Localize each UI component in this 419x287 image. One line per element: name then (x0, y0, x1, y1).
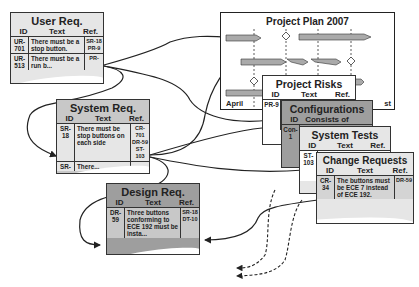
row-id: Con-1 (282, 125, 300, 155)
col-text: Text (80, 114, 126, 123)
col-ref: Ref. (126, 114, 147, 123)
col-ref: Ref. (332, 90, 353, 99)
column-header: ID Text Ref. (300, 141, 390, 150)
torn-edge (316, 214, 414, 224)
configurations-title: Configurations (282, 103, 372, 115)
project-risks-title: Project Risks (263, 78, 355, 90)
col-id: ID (109, 198, 130, 207)
row-text: There must be a stop button. (29, 37, 85, 53)
col-text: Text (34, 27, 80, 36)
column-header: ID Text Ref. (11, 27, 103, 36)
row-text: There must be a run b... (29, 54, 85, 70)
col-text: Consists of (304, 115, 349, 124)
col-text: Text (130, 198, 176, 207)
row-ref: PR- (85, 54, 103, 70)
row-id: DR-59 (107, 208, 125, 238)
row-ref: DR-59 (395, 176, 413, 199)
design-req-title: Design Req. (107, 186, 199, 198)
col-id: ID (13, 27, 34, 36)
column-header: ID Text Ref. (263, 90, 355, 99)
row-id: SR-18 (57, 124, 75, 161)
row-text: The buttons must be ECE 7 instead of ECE… (335, 176, 395, 199)
table-row[interactable]: CR-34 The buttons must be ECE 7 instead … (317, 175, 413, 199)
col-ref: Ref. (389, 166, 411, 175)
col-ref: Ref. (80, 27, 101, 36)
table-row[interactable]: DR-59 Three buttons conforming to ECE 19… (107, 207, 199, 238)
row-ref: SR-18 PR-9 (85, 37, 103, 53)
system-req-title: System Req. (57, 102, 149, 114)
col-id: ID (265, 90, 286, 99)
change-requests-title: Change Requests (317, 155, 413, 166)
row-id: CR-34 (317, 176, 335, 199)
column-header: ID Consists of (282, 115, 372, 124)
change-requests-card[interactable]: Change Requests ID Text Ref. CR-34 The b… (316, 152, 414, 224)
table-row[interactable]: UR-701 There must be a stop button. SR-1… (11, 36, 103, 53)
row-id: PR-9 (263, 100, 281, 130)
torn-edge (106, 246, 200, 255)
system-req-card[interactable]: System Req. ID Text Ref. SR-18 There mus… (56, 99, 150, 174)
col-id: ID (302, 141, 322, 150)
row-text: Three buttons conforming to ECE 192 must… (125, 208, 181, 238)
table-row[interactable]: UR-513 There must be a run b... PR- (11, 53, 103, 70)
project-plan-title: Project Plan 2007 (221, 16, 394, 27)
column-header: ID Text Ref. (317, 166, 413, 175)
torn-edge (10, 74, 104, 84)
user-req-card[interactable]: User Req. ID Text Ref. UR-701 There must… (10, 12, 104, 84)
table-row[interactable]: SR-18 There must be stop buttons on each… (57, 123, 149, 161)
row-text: There must be stop buttons on each side (75, 124, 131, 161)
col-ref: Ref. (368, 141, 388, 150)
design-req-card[interactable]: Design Req. ID Text Ref. DR-59 Three but… (106, 183, 200, 255)
col-id: ID (59, 114, 80, 123)
col-id: ID (284, 115, 304, 124)
axis-label-end: st (384, 99, 391, 108)
column-header: ID Text Ref. (107, 198, 199, 207)
user-req-title: User Req. (11, 15, 103, 27)
row-ref: SR-18 DT-10 (181, 208, 199, 238)
axis-label-april: April (226, 99, 243, 108)
column-header: ID Text Ref. (57, 114, 149, 123)
col-text: Text (286, 90, 332, 99)
row-id: UR-701 (11, 37, 29, 53)
row-id: SR- (57, 162, 75, 171)
col-text: Text (322, 141, 367, 150)
col-id: ID (319, 166, 341, 175)
col-text: Text (341, 166, 389, 175)
row-id: UR-513 (11, 54, 29, 70)
row-ref: CR-701 DR-59 ST-103 (131, 124, 149, 161)
system-tests-title: System Tests (300, 129, 390, 141)
col-ref: Ref. (176, 198, 197, 207)
